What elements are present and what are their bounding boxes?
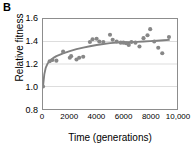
y-tick-label: 1.4 — [18, 37, 38, 46]
data-point — [145, 33, 149, 37]
data-point — [167, 35, 171, 39]
plot-canvas — [43, 19, 177, 109]
data-point — [69, 54, 73, 58]
y-tick-label: 1.6 — [18, 14, 38, 23]
plot-area — [42, 18, 178, 110]
data-point — [91, 37, 95, 41]
data-point — [77, 56, 81, 60]
data-point — [81, 55, 85, 59]
y-tick-label: 1.2 — [18, 60, 38, 69]
data-point — [115, 39, 119, 43]
data-point — [141, 36, 145, 40]
y-tick-label: 0.8 — [18, 106, 38, 115]
data-point — [43, 84, 45, 88]
data-point — [50, 58, 54, 62]
data-point — [137, 45, 141, 49]
x-tick-label: 0 — [40, 112, 44, 121]
x-tick-label: 10,000 — [166, 112, 190, 121]
x-axis-title: Time (generations) — [42, 132, 178, 143]
data-point — [108, 33, 112, 37]
data-point — [101, 40, 105, 44]
data-point — [111, 38, 115, 42]
figure-panel-b: B Relative fitness Time (generations) 0.… — [0, 0, 195, 151]
data-point — [129, 40, 133, 44]
data-point — [160, 51, 164, 55]
fit-line — [43, 40, 169, 87]
x-tick-label: 4000 — [87, 112, 105, 121]
fit-curve-path — [43, 40, 169, 87]
data-point — [133, 41, 137, 45]
data-point — [61, 50, 65, 54]
panel-label: B — [3, 1, 11, 13]
data-point — [152, 39, 156, 43]
data-point — [156, 46, 160, 50]
x-tick-label: 8000 — [142, 112, 160, 121]
data-point — [148, 27, 152, 31]
x-tick-label: 2000 — [60, 112, 78, 121]
y-tick-label: 1.0 — [18, 83, 38, 92]
x-tick-label: 6000 — [115, 112, 133, 121]
data-points — [43, 27, 171, 88]
data-point — [54, 59, 58, 63]
data-point — [97, 39, 101, 43]
